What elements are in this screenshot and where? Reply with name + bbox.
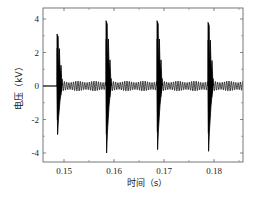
voltage-pulse — [157, 21, 162, 150]
voltage-pulse — [106, 21, 111, 153]
y-axis-title: 电压（kV） — [13, 62, 24, 109]
x-tick-label: 0.17 — [156, 166, 172, 176]
voltage-pulse — [57, 34, 62, 135]
x-tick-label: 0.16 — [106, 166, 122, 176]
voltage-chart: 420-2-4 0.150.160.170.18 电压（kV） 时间（s） — [0, 0, 255, 197]
y-tick-label: -4 — [32, 148, 40, 158]
y-tick-label: 0 — [35, 81, 40, 91]
y-tick-label: 4 — [35, 14, 40, 24]
y-tick-label: 2 — [35, 48, 40, 58]
voltage-pulse — [208, 22, 213, 151]
y-tick-label: -2 — [32, 115, 40, 125]
x-tick-label: 0.18 — [206, 166, 222, 176]
voltage-waveform — [43, 21, 243, 153]
x-tick-label: 0.15 — [56, 166, 72, 176]
x-axis-title: 时间（s） — [127, 177, 168, 188]
